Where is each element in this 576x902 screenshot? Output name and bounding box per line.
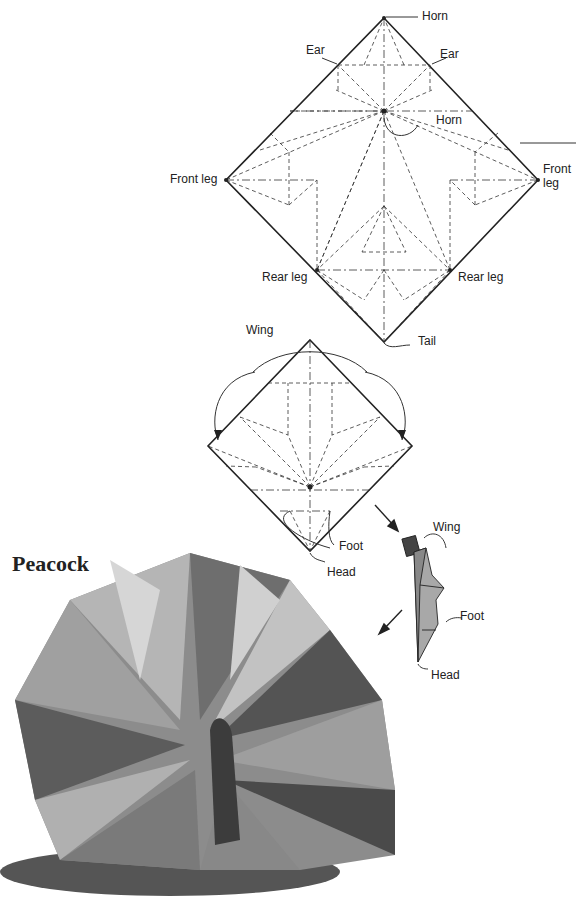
label-foot-2: Foot xyxy=(339,540,363,553)
label-horn-top: Horn xyxy=(422,10,448,23)
label-ear-left: Ear xyxy=(306,44,325,57)
crease-pattern-2 xyxy=(208,340,412,562)
peacock-photo xyxy=(0,553,395,896)
diagram-canvas xyxy=(0,0,576,902)
label-tail: Tail xyxy=(418,335,436,348)
label-front-leg-right-1: Front xyxy=(543,163,571,176)
label-front-leg-right-2: leg xyxy=(543,177,559,190)
label-head-2: Head xyxy=(327,566,356,579)
label-ear-right: Ear xyxy=(440,48,459,61)
label-front-leg-left: Front leg xyxy=(170,173,217,186)
label-head-3: Head xyxy=(431,669,460,682)
label-wing-3: Wing xyxy=(433,521,460,534)
label-rear-leg-right: Rear leg xyxy=(458,271,503,284)
label-rear-leg-left: Rear leg xyxy=(262,271,307,284)
label-foot-3: Foot xyxy=(460,610,484,623)
label-wing-2: Wing xyxy=(246,324,273,337)
folded-base xyxy=(402,534,462,669)
label-horn-center: Horn xyxy=(436,114,462,127)
crease-pattern-1 xyxy=(224,16,576,347)
step-arrows xyxy=(375,505,402,634)
page-title: Peacock xyxy=(12,551,89,577)
